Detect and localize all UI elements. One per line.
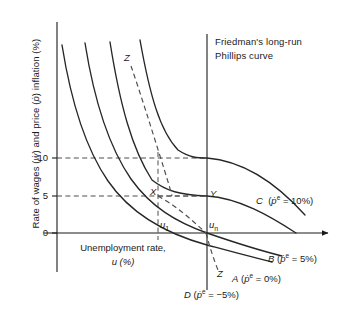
curve-label-B: B (ṗe = 5%) — [268, 252, 317, 264]
curve-label-C: C (ṗe = 10%) — [256, 194, 313, 206]
point-label-X: X — [150, 186, 156, 197]
ytick-label-10: 10 — [26, 152, 48, 163]
ytick-label-0: 0 — [26, 227, 48, 238]
y-axis-label-mid: ) and price ( — [30, 102, 41, 154]
ytick-label-5: 5 — [26, 190, 48, 201]
phillips-curve-A — [85, 43, 282, 256]
axis-mark-u1: u1 — [160, 219, 169, 233]
point-label-Y: Y — [210, 188, 216, 199]
phillips-curve-figure: Rate of wages (ẇ) and price (ṗ) inflat… — [0, 0, 352, 316]
y-axis-label-post: ) inflation (%) — [30, 39, 41, 96]
curve-label-A: A (ṗe = 0%) — [232, 272, 281, 284]
x-axis-label-line2: u (%) — [62, 256, 184, 267]
chart-canvas — [0, 0, 352, 316]
friedman-annotation-line2: Phillips curve — [215, 50, 273, 61]
y-axis-label: Rate of wages (ẇ) and price (ṗ) inflat… — [30, 14, 41, 254]
axis-mark-un: un — [209, 219, 218, 233]
p-dot-symbol: ṗ — [30, 96, 41, 101]
curve-label-D: D (ṗe = −5%) — [184, 288, 239, 300]
point-label-Z-lower: Z — [217, 268, 223, 279]
adjustment-path-dashed-lower — [206, 233, 218, 270]
adjustment-path-dashed-upper — [131, 66, 172, 196]
x-axis-label-line1: Unemployment rate, — [62, 242, 184, 253]
point-label-Z-upper: Z — [124, 52, 130, 63]
friedman-annotation-line1: Friedman's long-run — [215, 36, 302, 47]
phillips-curve-C — [140, 40, 305, 215]
